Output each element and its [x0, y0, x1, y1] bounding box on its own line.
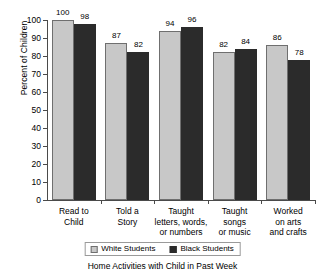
y-axis-tick-label: 50 [32, 106, 41, 115]
y-axis-tick [43, 164, 47, 165]
bar-black-students [74, 24, 96, 200]
bar-black-students [181, 27, 203, 200]
bar-value-label: 87 [101, 32, 131, 40]
x-axis-tick [315, 200, 316, 204]
bar-white-students [52, 20, 74, 200]
bar-value-label: 86 [262, 34, 292, 42]
y-axis-tick-label: 30 [32, 142, 41, 151]
y-axis-tick-label: 80 [32, 52, 41, 61]
x-axis-line [47, 200, 315, 201]
x-axis-title: Home Activities with Child in Past Week [0, 261, 325, 271]
bar-black-students [235, 49, 257, 200]
y-axis-tick-label: 20 [32, 160, 41, 169]
x-axis-tick [208, 200, 209, 204]
y-axis-tick [43, 74, 47, 75]
y-axis-tick [43, 128, 47, 129]
y-axis-tick [43, 182, 47, 183]
y-axis-tick [43, 56, 47, 57]
bar-white-students [213, 52, 235, 200]
legend: White Students Black Students [84, 242, 241, 256]
bar-chart: Percent of Children 01020304050607080901… [0, 0, 325, 275]
x-axis-tick [261, 200, 262, 204]
bar-white-students [105, 43, 127, 200]
bar-white-students [159, 31, 181, 200]
bar-value-label: 98 [70, 13, 100, 21]
y-axis-tick [43, 92, 47, 93]
bar-value-label: 96 [177, 16, 207, 24]
plot-area: 0102030405060708090100 10098878294968284… [47, 20, 315, 200]
bar-white-students [266, 45, 288, 200]
legend-item-black-students: Black Students [169, 245, 233, 253]
bar-value-label: 82 [123, 41, 153, 49]
x-axis-category-label: Worked on arts and crafts [255, 206, 321, 238]
bar-value-label: 84 [231, 38, 261, 46]
bar-black-students [127, 52, 149, 200]
y-axis-tick-label: 40 [32, 124, 41, 133]
y-axis-tick [43, 110, 47, 111]
y-axis-tick-label: 70 [32, 70, 41, 79]
y-axis-tick-label: 60 [32, 88, 41, 97]
y-axis-tick-label: 0 [36, 196, 41, 205]
y-axis-tick [43, 146, 47, 147]
bar-value-label: 78 [284, 49, 314, 57]
y-axis-tick-label: 10 [32, 178, 41, 187]
y-axis-tick-label: 90 [32, 34, 41, 43]
legend-label: White Students [101, 245, 155, 253]
legend-swatch-icon-black [169, 246, 176, 253]
y-axis-tick [43, 38, 47, 39]
legend-item-white-students: White Students [90, 245, 155, 253]
x-axis-tick [154, 200, 155, 204]
x-axis-tick [101, 200, 102, 204]
legend-swatch-icon-white [90, 246, 97, 253]
bar-black-students [288, 60, 310, 200]
legend-label: Black Students [180, 245, 233, 253]
y-axis-tick-label: 100 [27, 16, 41, 25]
y-axis-tick [43, 200, 47, 201]
y-axis-line [47, 20, 48, 200]
y-axis-tick [43, 20, 47, 21]
